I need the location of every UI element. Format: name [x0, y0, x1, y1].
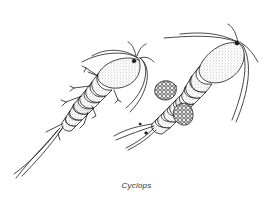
egg-sac-lower: [173, 103, 193, 125]
cyclops-illustration: [0, 0, 273, 204]
right-cyclops: [114, 24, 258, 150]
left-cyclops: [14, 42, 154, 178]
figure: Cyclops: [0, 0, 273, 204]
figure-caption: Cyclops: [0, 181, 273, 190]
egg-sac-upper: [155, 81, 177, 100]
